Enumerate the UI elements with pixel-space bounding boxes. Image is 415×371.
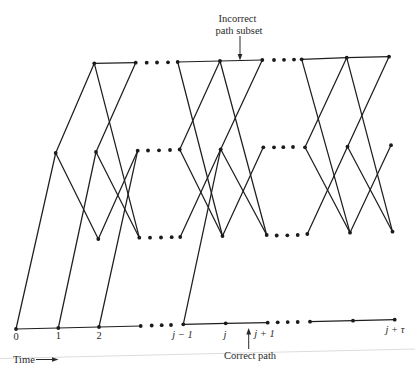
ellipsis-dot bbox=[291, 145, 295, 149]
trellis-node bbox=[181, 322, 185, 326]
ellipsis-dot bbox=[160, 323, 164, 327]
trellis-node bbox=[176, 60, 180, 64]
ellipsis-dot bbox=[170, 235, 174, 239]
trellis-node bbox=[219, 147, 223, 151]
trellis-node bbox=[348, 231, 352, 235]
ellipsis-dot bbox=[296, 233, 300, 237]
trellis-node bbox=[389, 143, 393, 147]
time-label-j-plus-1: j + 1 bbox=[252, 328, 275, 339]
trellis-node bbox=[391, 230, 395, 234]
ellipsis-dot bbox=[276, 320, 280, 324]
trellis-branch bbox=[94, 63, 135, 64]
time-label-j-minus-1: j − 1 bbox=[170, 329, 193, 340]
trellis-node bbox=[178, 148, 182, 152]
trellis-node bbox=[94, 150, 98, 154]
trellis-node bbox=[134, 61, 138, 65]
trellis-node bbox=[393, 318, 397, 322]
ellipsis-dot bbox=[145, 61, 149, 65]
ellipsis-dot bbox=[281, 145, 285, 149]
trellis-node bbox=[178, 235, 182, 239]
ellipsis-dot bbox=[286, 320, 290, 324]
trellis-node bbox=[96, 237, 100, 241]
ellipsis-dot bbox=[282, 58, 286, 62]
trellis-diagram: Incorrect path subset Correct path Time … bbox=[0, 0, 415, 371]
trellis-node bbox=[265, 233, 269, 237]
ellipsis-dot bbox=[292, 58, 296, 62]
time-label-1: 1 bbox=[56, 330, 61, 341]
ellipsis-dot bbox=[146, 149, 150, 153]
trellis-node bbox=[261, 145, 265, 149]
ellipsis-dot bbox=[168, 148, 172, 152]
trellis-node bbox=[137, 236, 141, 240]
trellis-node bbox=[224, 321, 228, 325]
trellis-node bbox=[97, 325, 101, 329]
incorrect-subset-label-line1: Incorrect bbox=[219, 13, 257, 24]
trellis-node bbox=[387, 55, 391, 59]
ellipsis-dot bbox=[272, 58, 276, 62]
trellis-node bbox=[351, 319, 355, 323]
ellipsis-dot bbox=[155, 61, 159, 65]
ellipsis-dot bbox=[150, 324, 154, 328]
trellis-node bbox=[266, 321, 270, 325]
ellipsis-dot bbox=[166, 60, 170, 64]
time-label-j-plus-tau: j + τ bbox=[383, 324, 405, 335]
trellis-node bbox=[305, 232, 309, 236]
trellis-node bbox=[300, 57, 304, 61]
correct-path-label: Correct path bbox=[224, 350, 277, 361]
ellipsis-dot bbox=[157, 148, 161, 152]
ellipsis-dot bbox=[272, 145, 276, 149]
trellis-node bbox=[303, 145, 307, 149]
trellis-node bbox=[346, 145, 350, 149]
ellipsis-dot bbox=[285, 233, 289, 237]
ellipsis-dot bbox=[296, 320, 300, 324]
incorrect-subset-label-line2: path subset bbox=[216, 25, 263, 36]
trellis-node bbox=[308, 320, 312, 324]
ellipsis-dot bbox=[148, 236, 152, 240]
ellipsis-dot bbox=[275, 234, 279, 238]
ellipsis-dot bbox=[159, 236, 163, 240]
time-label-0: 0 bbox=[13, 331, 18, 342]
correct-path-segment bbox=[226, 323, 268, 324]
time-label-2: 2 bbox=[96, 330, 101, 341]
trellis-node bbox=[260, 58, 264, 62]
time-axis-label: Time bbox=[13, 354, 35, 365]
trellis-node bbox=[221, 234, 225, 238]
trellis-node bbox=[218, 59, 222, 63]
trellis-node bbox=[139, 324, 143, 328]
trellis-node bbox=[136, 149, 140, 153]
trellis-node bbox=[92, 61, 96, 65]
page-background bbox=[0, 0, 415, 371]
ellipsis-dot bbox=[169, 323, 173, 327]
trellis-node bbox=[54, 151, 58, 155]
trellis-node bbox=[345, 56, 349, 60]
